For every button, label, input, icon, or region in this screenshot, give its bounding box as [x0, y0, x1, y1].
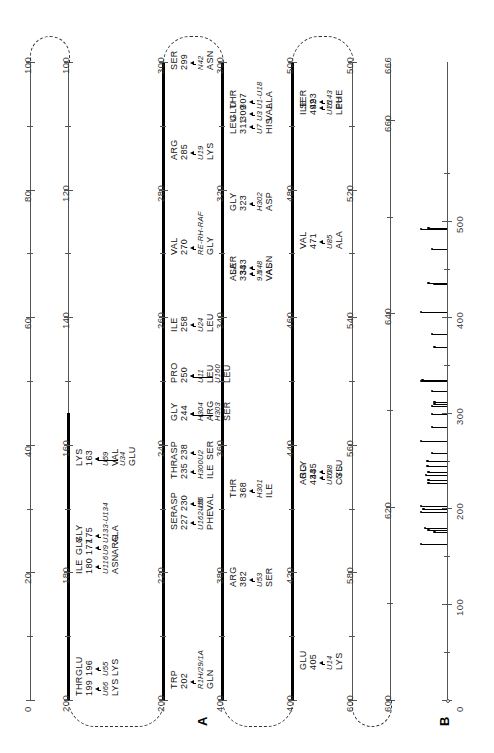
mutation-residue: ASP	[265, 192, 274, 211]
axis-tick-label: 560	[345, 439, 355, 456]
residue-code: PRO	[170, 362, 179, 383]
chart-stem	[428, 466, 447, 467]
sequence-connector	[30, 36, 70, 63]
arrow-head-icon	[95, 687, 99, 691]
mutation-residue: LEU	[206, 313, 215, 332]
arrow-head-icon	[319, 100, 323, 104]
mutation-residue: VAL	[265, 263, 274, 281]
chart-stem	[421, 229, 447, 230]
axis-tick-minor	[289, 636, 295, 637]
arrow-head-icon	[249, 202, 253, 206]
residue-number: 196	[85, 660, 94, 676]
arrow-head-icon	[190, 451, 194, 455]
axis-tick-minor	[65, 253, 71, 254]
residue-number: 270	[180, 239, 189, 255]
chart-stem	[421, 506, 447, 507]
panel-b-letter: B	[438, 717, 451, 726]
residue-number: 382	[239, 571, 248, 587]
axis-tick-label: 480	[285, 184, 295, 201]
arrow-head-icon	[190, 246, 194, 250]
axis-tick-label: 380	[215, 567, 225, 584]
axis-tick-label: 0	[23, 706, 33, 712]
axis-tick-label: 660	[383, 115, 393, 132]
mutation-residue: LYS	[206, 142, 215, 160]
chart-axis-tick-minor	[444, 652, 450, 653]
chart-axis-tick-label: 500	[455, 216, 465, 233]
arrow-head-icon	[249, 100, 253, 104]
axis-tick-minor	[65, 126, 71, 127]
mutation-origin: U14	[326, 656, 334, 671]
residue-code: GLU	[75, 657, 84, 677]
axis-tick-minor	[27, 126, 33, 127]
mutation-origin: U7	[256, 124, 264, 134]
axis-tick-label: 120	[61, 184, 71, 201]
axis-tick-minor	[160, 509, 166, 510]
axis-tick-label: 20	[23, 573, 33, 585]
sequence-connector	[292, 36, 354, 63]
residue-number: 299	[180, 54, 189, 70]
axis-tick-label: 140	[61, 312, 71, 329]
arrow-head-icon	[190, 151, 194, 155]
axis-tick-minor	[160, 636, 166, 637]
mutation-origin: H300	[197, 460, 205, 479]
arrow-head-icon	[249, 272, 253, 276]
annotation-leader	[193, 377, 213, 378]
residue-number: 368	[239, 482, 248, 498]
residue-number: 405	[309, 654, 318, 670]
axis-tick-minor	[27, 253, 33, 254]
arrow-head-icon	[95, 565, 99, 569]
chart-axis-tick-label: 200	[455, 503, 465, 520]
axis-tick-minor	[289, 253, 295, 254]
chart-stem	[421, 512, 447, 513]
mutation-origin: U116	[102, 556, 110, 574]
axis-tick-minor	[27, 381, 33, 382]
arrow-head-icon	[319, 240, 323, 244]
axis-tick-label: 80	[23, 190, 33, 202]
axis-tick-minor	[387, 603, 393, 604]
mutation-residue: SER	[206, 440, 215, 460]
mutation-origin: H303	[214, 402, 222, 421]
arrow-head-icon	[190, 323, 194, 327]
mutation-residue: LYS	[111, 659, 120, 677]
residue-number: 250	[180, 367, 189, 383]
chart-axis-tick	[442, 604, 452, 605]
chart-stem	[432, 334, 447, 335]
arrow-head-icon	[95, 457, 99, 461]
arrow-head-icon	[249, 125, 253, 129]
axis-tick-minor	[349, 636, 355, 637]
mutation-residue: LYS	[111, 678, 120, 696]
residue-code: SER	[299, 89, 308, 109]
mutation-origin: H304	[197, 402, 205, 421]
mutation-residue: ILE	[265, 483, 274, 498]
chart-axis-tick-minor	[444, 269, 450, 270]
mutation-residue: VAL	[206, 493, 215, 511]
arrow-head-icon	[319, 470, 323, 474]
mutation-origin: U38	[326, 464, 334, 479]
residue-number: 227	[180, 514, 189, 530]
axis-tick-label: 260	[156, 312, 166, 329]
chart-stem	[432, 427, 447, 428]
annotation-leader	[193, 415, 213, 416]
mutation-residue: PHE	[206, 510, 215, 530]
figure-root: 0204060801001001201401601802002002202402…	[0, 0, 494, 753]
residue-code: SER	[170, 510, 179, 530]
arrow-head-icon	[190, 61, 194, 65]
axis-tick-minor	[387, 217, 393, 218]
axis-tick-label: 340	[215, 312, 225, 329]
residue-number: 180	[85, 558, 94, 574]
residue-number: 199	[85, 679, 94, 695]
mutation-residue: ILE	[206, 464, 215, 479]
chart-axis-tick-label: 100	[455, 599, 465, 616]
axis-tick-label: 220	[156, 567, 166, 584]
mutation-origin: 9.1	[256, 270, 264, 281]
axis-tick-minor	[219, 636, 225, 637]
mutation-origin: U133-U134	[102, 502, 110, 543]
sequence-connector	[222, 700, 294, 727]
chart-axis-tick-minor	[444, 173, 450, 174]
mutation-origin: U56	[197, 496, 205, 511]
arrow-head-icon	[319, 106, 323, 110]
arrow-head-icon	[190, 502, 194, 506]
mutation-origin: U160	[214, 364, 222, 383]
arrow-head-icon	[249, 112, 253, 116]
arrow-head-icon	[190, 412, 194, 416]
